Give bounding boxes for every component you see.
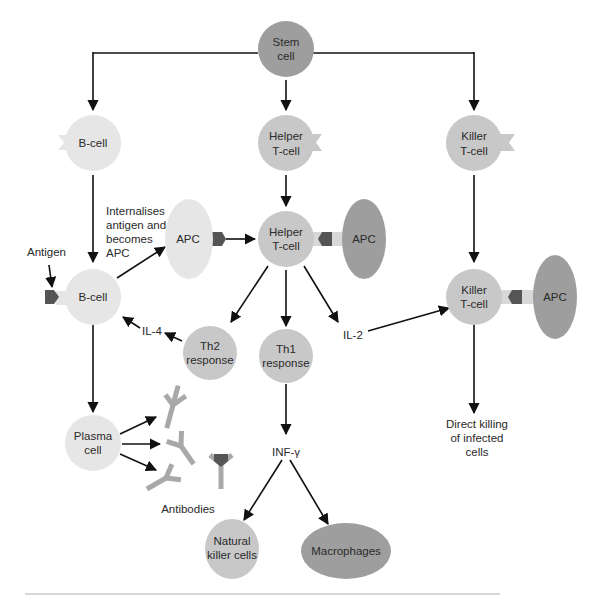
nk-label: Natural <box>213 535 250 547</box>
antibody-icon <box>167 431 201 469</box>
edge-plasma-to-ab1 <box>120 417 156 434</box>
nk-label-2: killer cells <box>207 549 257 561</box>
b-cell-top-label: B-cell <box>79 137 108 149</box>
macrophages-node: Macrophages <box>301 523 391 579</box>
stem-cell-label-2: cell <box>277 50 294 62</box>
apc-right-node: APC <box>533 255 577 339</box>
direct-killing-line-3: cells <box>465 446 488 458</box>
internalises-line-3: becomes <box>106 233 153 245</box>
antibodies-label: Antibodies <box>161 503 215 515</box>
edge-helper-to-th2 <box>231 266 268 322</box>
edge-il2-to-killer <box>368 308 449 331</box>
killer-t-cell-mid-node: Killer T-cell <box>446 269 534 325</box>
helper-t-cell-top-node: Helper T-cell <box>258 115 322 171</box>
killer-t-cell-top-node: Killer T-cell <box>446 115 515 171</box>
antigen-icon <box>212 232 226 246</box>
apc-mid-node: APC <box>342 199 386 279</box>
antibody-icon <box>157 383 188 431</box>
apc-mid-label: APC <box>352 233 376 245</box>
th1-label-2: response <box>262 357 309 369</box>
edge-th2-to-il4 <box>165 333 182 341</box>
edge-helper-to-il2 <box>304 266 338 322</box>
bound-antigen-icon <box>214 454 228 467</box>
apc-left-node: APC <box>165 199 226 279</box>
th2-response-node: Th2 response <box>183 326 237 380</box>
b-cell-mid-node: B-cell <box>45 269 121 325</box>
internalises-line-2: antigen and <box>106 219 166 231</box>
b-cell-mid-label: B-cell <box>79 291 108 303</box>
antigen-label: Antigen <box>27 246 66 258</box>
stem-cell-label: Stem <box>273 36 300 48</box>
killer-t-mid-label: Killer <box>461 284 487 296</box>
antibodies-group <box>142 383 232 497</box>
helper-t-top-label: Helper <box>269 130 303 142</box>
apc-left-label: APC <box>176 233 200 245</box>
helper-t-mid-label-2: T-cell <box>272 240 299 252</box>
edge-plasma-to-ab3 <box>120 454 156 470</box>
th2-label-2: response <box>186 354 233 366</box>
edge-il4-to-bcell <box>123 317 140 328</box>
il4-label: IL-4 <box>142 325 162 337</box>
natural-killer-cells-node: Natural killer cells <box>205 519 259 579</box>
plasma-cell-node: Plasma cell <box>65 415 121 471</box>
th1-response-node: Th1 response <box>259 329 313 383</box>
plasma-cell-label-2: cell <box>84 444 101 456</box>
killer-t-top-label: Killer <box>461 130 487 142</box>
killer-t-mid-label-2: T-cell <box>460 298 487 310</box>
edge-inf-to-macro <box>290 460 328 524</box>
direct-killing-annotation: Direct killing of infected cells <box>446 418 508 458</box>
b-cell-top-node: B-cell <box>58 115 121 171</box>
edge-inf-to-nk <box>244 460 282 520</box>
th1-label: Th1 <box>276 343 296 355</box>
direct-killing-line-1: Direct killing <box>446 418 508 430</box>
immune-response-diagram: Stem cell B-cell Helper T-cell Killer T-… <box>0 0 605 606</box>
helper-t-top-label-2: T-cell <box>272 145 299 157</box>
helper-t-mid-label: Helper <box>269 226 303 238</box>
killer-t-top-label-2: T-cell <box>460 145 487 157</box>
plasma-cell-label: Plasma <box>74 430 113 442</box>
apc-right-label: APC <box>543 291 567 303</box>
il2-label: IL-2 <box>343 329 363 341</box>
th2-label: Th2 <box>200 340 220 352</box>
antibody-icon <box>142 464 180 497</box>
internalises-line-1: Internalises <box>106 205 165 217</box>
stem-cell-node: Stem cell <box>258 21 314 77</box>
internalises-annotation: Internalises antigen and becomes APC <box>106 205 166 259</box>
inf-gamma-label: INF-γ <box>272 446 300 458</box>
helper-t-cell-mid-node: Helper T-cell <box>258 211 343 267</box>
edge-antigen-pointer <box>49 265 52 287</box>
direct-killing-line-2: of infected <box>450 432 503 444</box>
macrophages-label: Macrophages <box>311 545 381 557</box>
internalises-line-4: APC <box>106 247 130 259</box>
